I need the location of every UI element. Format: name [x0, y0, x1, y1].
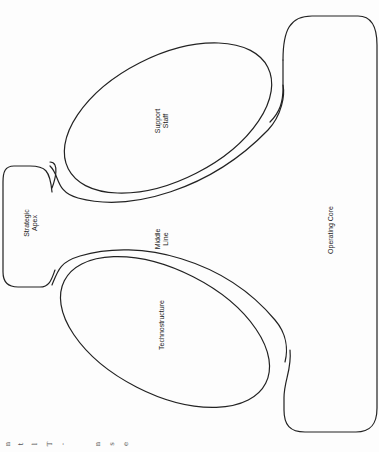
margin-fragment: n — [94, 442, 102, 447]
margin-fragment: t — [17, 443, 25, 446]
operating-core-top-neck — [270, 60, 283, 122]
margin-fragment: l — [31, 443, 39, 445]
organization-diagram — [0, 0, 379, 452]
support-staff-label: Support Staff — [154, 103, 172, 139]
margin-fragment: n — [4, 442, 12, 447]
margin-fragment: e — [122, 442, 130, 446]
margin-fragment: - — [59, 443, 67, 445]
scanned-page: Strategic Apex Middle Line Support Staff… — [0, 0, 379, 452]
margin-fragment: s — [108, 442, 116, 446]
margin-fragment: T — [46, 442, 54, 447]
operating-core-label: Operating Core — [327, 198, 337, 262]
technostructure-label: Technostructure — [158, 290, 168, 360]
margin-text-fragments: n t l T - n s e — [0, 440, 140, 452]
strategic-apex-label: Strategic Apex — [23, 203, 41, 243]
middle-line-label: Middle Line — [154, 222, 172, 256]
